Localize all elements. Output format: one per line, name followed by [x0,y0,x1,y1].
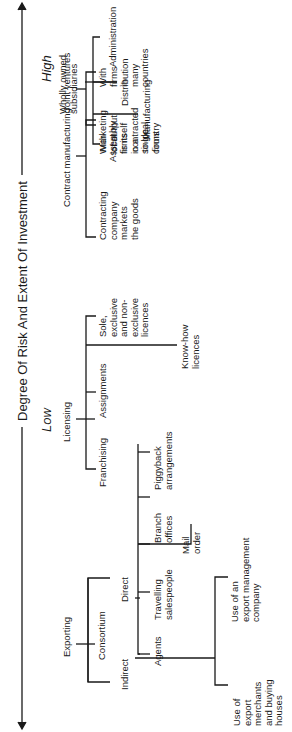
indirect-export-management: Use of an export management company [230,538,262,623]
subsidiary-manufacturing: Manufacturing [142,80,153,140]
mode-exporting: Exporting [62,617,73,657]
licensing-know-how: Know-how licences [180,325,201,369]
mode-wholly-owned: Wholly owned subsidiaries [58,55,79,114]
market-entry-diagram: Low Degree Of Risk And Extent Of Investm… [0,0,292,732]
direct-mail-order: Mail order [181,532,202,554]
axis-low-label: Low [42,408,53,432]
subsidiary-administration: Administration [108,7,119,67]
licensing-franchising: Franchising [98,438,109,487]
mode-contract-manufacturing: Contract manufacturing [62,108,73,207]
exporting-indirect: Indirect [120,659,131,690]
arrow-left-icon [18,722,26,729]
mode-licensing: Licensing [62,402,73,442]
licensing-assignments: Assignments [98,364,109,418]
direct-agents: Agents [153,636,164,666]
exporting-direct: Direct [120,577,131,602]
axis-high-label: High [42,55,53,82]
licensing-sole-exclusive: Sole, exclusive and non- exclusive licen… [98,298,151,337]
subsidiary-assembly: Assembly [108,121,119,162]
subsidiary-distribution: Distribution [120,58,131,106]
direct-branch-offices: Branch offices [153,513,174,543]
arrow-right-icon [18,3,26,10]
indirect-export-merchants: Use of export merchants and buying house… [232,680,285,726]
direct-travelling-salespeople: Travelling salespeople [153,569,174,620]
exporting-consortium: Consortium [97,611,108,660]
axis-title: Degree Of Risk And Extent Of Investment [16,175,30,427]
contract-company-markets: Contracting company markets the goods [98,191,140,240]
direct-piggyback: Piggyback arrangements [153,431,174,490]
